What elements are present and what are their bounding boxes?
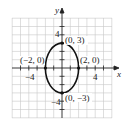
tick-label-y-neg4: −4 [51, 97, 61, 107]
x-axis-label: x [116, 69, 121, 79]
point-label-top: (0, 3) [65, 35, 85, 45]
point-top [60, 42, 63, 45]
point-left [44, 66, 47, 69]
y-axis-arrow-icon [60, 8, 64, 13]
tick-label-x-neg4: −4 [25, 72, 35, 82]
point-bottom [60, 91, 63, 94]
point-label-bottom: (0, −3) [65, 93, 90, 103]
point-label-right: (2, 0) [80, 55, 100, 65]
ellipse-graph: y x −4 4 4 −4 (0, 3) (2, 0) (−2, 0) (0, … [0, 0, 130, 129]
point-label-left: (−2, 0) [20, 55, 45, 65]
tick-label-y-pos4: 4 [55, 29, 60, 39]
y-axis-label: y [54, 5, 59, 15]
point-right [77, 66, 80, 69]
tick-label-x-pos4: 4 [93, 72, 98, 82]
